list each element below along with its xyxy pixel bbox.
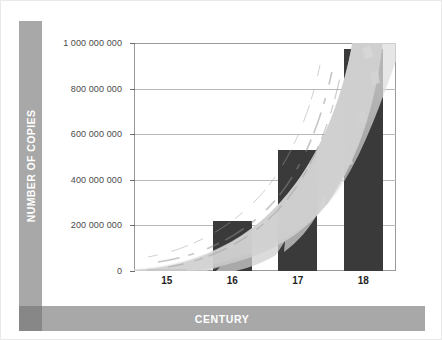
y-axis-tick-label: 1 000 000 000 bbox=[63, 38, 122, 48]
plot-area bbox=[134, 43, 396, 271]
y-axis-title-band: NUMBER OF COPIES bbox=[19, 21, 42, 311]
x-axis-title: CENTURY bbox=[19, 313, 425, 325]
x-axis-tick-label: 15 bbox=[161, 275, 172, 286]
x-axis-tick-label: 17 bbox=[292, 275, 303, 286]
bar bbox=[278, 150, 317, 271]
x-axis-title-band: CENTURY bbox=[19, 306, 425, 331]
bar bbox=[213, 221, 252, 271]
bar bbox=[147, 269, 186, 271]
y-axis-tick-label: 0 bbox=[117, 266, 122, 276]
bar-series bbox=[134, 43, 396, 271]
y-axis-title: NUMBER OF COPIES bbox=[25, 110, 37, 223]
x-axis-tick-label: 18 bbox=[358, 275, 369, 286]
y-axis-tick-label: 200 000 000 bbox=[71, 220, 122, 230]
y-axis-tick bbox=[130, 271, 135, 272]
y-axis-tick-label: 600 000 000 bbox=[71, 129, 122, 139]
axis-band-corner bbox=[19, 306, 42, 331]
x-axis-tick-labels: 15161718 bbox=[134, 275, 396, 291]
bar bbox=[344, 49, 383, 271]
y-axis-tick-label: 800 000 000 bbox=[71, 84, 122, 94]
chart-page: NUMBER OF COPIES CENTURY 0200 000 000400… bbox=[0, 0, 442, 340]
x-axis-tick-label: 16 bbox=[227, 275, 238, 286]
y-axis-tick-label: 400 000 000 bbox=[71, 175, 122, 185]
